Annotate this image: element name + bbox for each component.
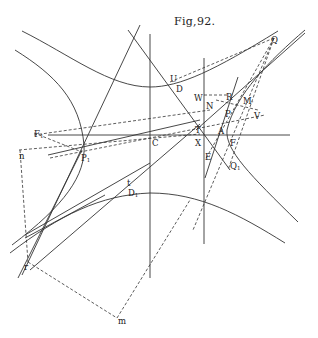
point-label: r <box>24 263 28 272</box>
line-d1-t <box>30 124 200 270</box>
point-label-subscript: 1 <box>40 133 44 139</box>
point-label: V <box>254 112 260 121</box>
dashed-m-up <box>117 200 190 318</box>
line-p1-t <box>48 120 200 155</box>
point-label-subscript: ' <box>252 100 254 106</box>
point-label-subscript: 1 <box>135 192 139 198</box>
asymptote-2 <box>22 25 140 275</box>
point-label: N <box>206 102 213 111</box>
point-label: U <box>170 75 177 84</box>
lower-hyperbola-branch <box>10 193 285 253</box>
point-label: M' <box>243 97 253 107</box>
point-label: D1 <box>128 189 138 199</box>
point-label: F1 <box>34 130 43 140</box>
point-label: A <box>218 127 224 136</box>
point-label: X <box>195 139 201 148</box>
line-low-2 <box>25 195 105 238</box>
point-label: W <box>194 94 203 103</box>
point-label: m <box>118 317 126 326</box>
point-label: R <box>226 93 232 102</box>
point-label: T <box>195 126 201 135</box>
left-hyperbola-branch <box>12 50 84 245</box>
point-label: Q1 <box>230 162 240 172</box>
dashed-q-e <box>205 38 274 160</box>
geometric-figure <box>0 0 318 338</box>
point-label-subscript: 1 <box>237 165 241 171</box>
point-label: D <box>176 85 183 94</box>
point-label: Q <box>271 36 278 45</box>
point-label: P <box>225 110 231 119</box>
dashed-q-lower <box>193 38 274 230</box>
line-d1-left <box>25 163 150 235</box>
point-label: C <box>152 139 159 148</box>
dashed-r-m <box>28 262 117 318</box>
point-label: E <box>205 153 211 162</box>
right-hyperbola-branch <box>227 30 305 222</box>
line-r-p1 <box>18 150 82 278</box>
point-label: n <box>19 152 24 161</box>
point-label: t <box>127 179 130 188</box>
point-label: P1 <box>81 154 90 164</box>
point-label: F <box>230 139 236 148</box>
point-label-subscript: 1 <box>87 157 91 163</box>
figure-title: Fig,92. <box>174 15 215 28</box>
